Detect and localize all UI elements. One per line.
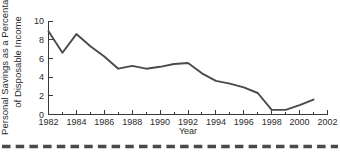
chart-figure: Personal Savings as a Percentage of Disp… bbox=[0, 0, 340, 152]
y-axis-tick-label: 8 bbox=[39, 35, 44, 45]
data-series-line bbox=[49, 31, 314, 110]
x-axis-tick-label: 1990 bbox=[150, 117, 170, 127]
x-axis-tick-label: 1994 bbox=[206, 117, 226, 127]
x-axis-tick-label: 1996 bbox=[234, 117, 254, 127]
y-axis-tick-labels: 0246810 bbox=[34, 16, 44, 120]
y-axis-tick-label: 10 bbox=[34, 16, 44, 26]
x-axis-tick-label: 1986 bbox=[94, 117, 114, 127]
x-axis-tick-label: 2000 bbox=[290, 117, 310, 127]
y-axis-tick-label: 2 bbox=[39, 91, 44, 101]
line-chart: Personal Savings as a Percentage of Disp… bbox=[0, 0, 340, 152]
x-axis-tick-label: 1998 bbox=[262, 117, 282, 127]
x-axis-tick-label: 1982 bbox=[38, 117, 58, 127]
x-axis-tick-label: 1988 bbox=[122, 117, 142, 127]
y-axis-label-line2: of Disposable Income bbox=[12, 16, 23, 107]
y-axis-label-line1: Personal Savings as a Percentage bbox=[0, 0, 10, 135]
x-axis-tick-label: 1984 bbox=[66, 117, 86, 127]
y-axis-tick-label: 6 bbox=[39, 54, 44, 64]
y-axis-label: Personal Savings as a Percentage of Disp… bbox=[0, 0, 23, 135]
x-axis-title: Year bbox=[179, 126, 197, 136]
y-axis-tick-label: 4 bbox=[39, 72, 44, 82]
x-axis-tick-label: 2002 bbox=[317, 117, 337, 127]
